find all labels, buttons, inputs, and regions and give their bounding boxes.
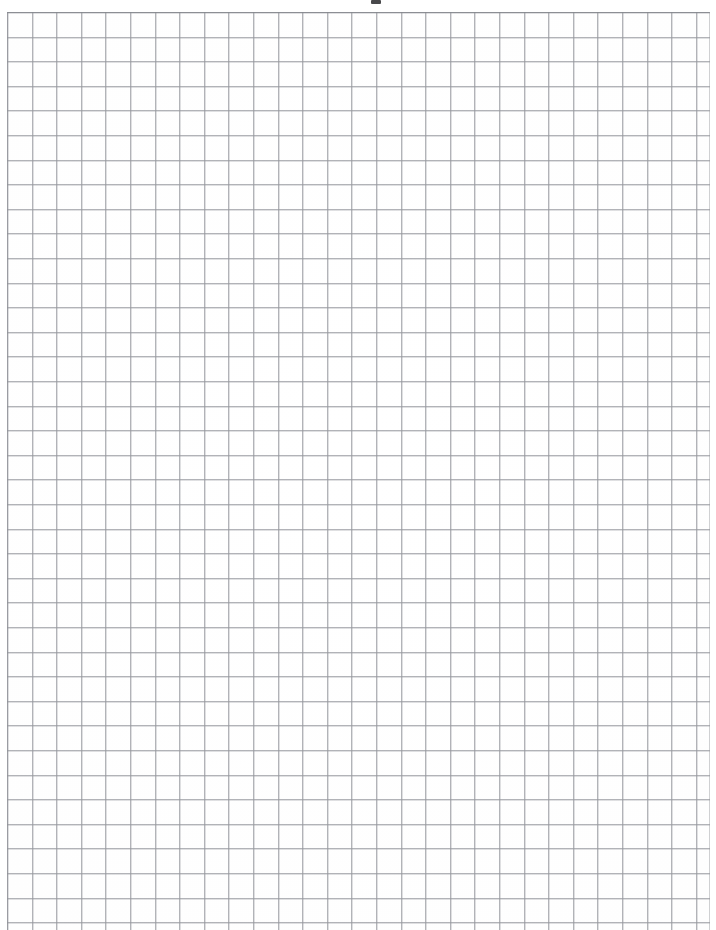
scanned-page xyxy=(0,0,716,930)
grid-minor-lines-softpass xyxy=(7,12,710,930)
page-margin-left xyxy=(0,0,7,930)
scan-smudge-artifact xyxy=(371,0,381,4)
grid-left-border xyxy=(7,12,8,930)
page-margin-top xyxy=(0,0,716,12)
graph-paper-grid xyxy=(7,12,710,930)
page-margin-right xyxy=(710,0,716,930)
grid-top-border xyxy=(7,12,710,13)
